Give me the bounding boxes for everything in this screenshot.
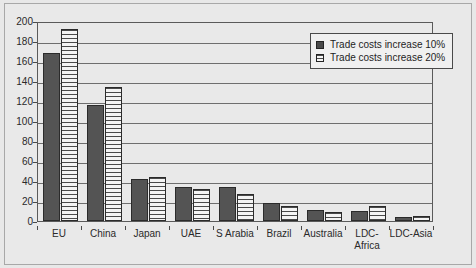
y-tick-label: 60 [3,157,33,167]
bar [43,53,60,221]
bar-group [170,187,214,221]
bar-group [82,87,126,221]
y-tick-label: 20 [3,197,33,207]
bar [351,211,368,221]
bar [395,217,412,221]
x-tick-label: LDC-Asia [389,228,433,240]
bar [369,206,386,221]
x-tick-mark [433,226,434,230]
y-tick-label: 80 [3,137,33,147]
bar [149,177,166,221]
legend-item: Trade costs increase 10% [316,38,445,51]
bar [307,210,324,221]
bar-group [126,177,170,221]
y-tick-label: 140 [3,77,33,87]
x-tick-label: UAE [169,228,213,240]
legend-swatch-series2 [316,54,324,62]
bar [131,179,148,221]
y-tick-label: 100 [3,117,33,127]
bar [413,216,430,221]
x-tick-label: S Arabia [213,228,257,240]
y-tick-label: 180 [3,37,33,47]
chart-legend: Trade costs increase 10% Trade costs inc… [310,33,453,69]
x-axis: EUChinaJapanUAES ArabiaBrazilAustraliaLD… [37,226,433,260]
x-tick-label: LDC-Africa [345,228,389,252]
bar [263,203,280,221]
bar-group [346,206,390,221]
y-tick-label: 160 [3,57,33,67]
bar-group [302,210,346,221]
bar [193,189,210,221]
bar [325,212,342,221]
gridline [38,83,432,84]
y-tick-label: 200 [3,17,33,27]
x-tick-label: Brazil [257,228,301,240]
y-tick-label: 0 [3,217,33,227]
bar [175,187,192,221]
x-tick-label: Australia [301,228,345,240]
y-tick-label: 40 [3,177,33,187]
x-tick-label: China [81,228,125,240]
bar-group [38,29,82,221]
legend-label-series1: Trade costs increase 10% [330,39,445,50]
bar [281,206,298,221]
bar [87,105,104,221]
bar [219,187,236,221]
x-tick-label: Japan [125,228,169,240]
legend-item: Trade costs increase 20% [316,51,445,64]
y-tick-label: 120 [3,97,33,107]
bar [61,29,78,221]
bar-group [214,187,258,221]
bar [237,194,254,221]
bar [105,87,122,221]
y-axis: 020406080100120140160180200 [0,22,33,222]
x-tick-label: EU [37,228,81,240]
bar-group [390,216,434,221]
legend-swatch-series1 [316,41,324,49]
bar-group [258,203,302,221]
legend-label-series2: Trade costs increase 20% [330,52,445,63]
chart-figure: 020406080100120140160180200 EUChinaJapan… [0,0,476,268]
y-tick-mark [33,222,37,223]
